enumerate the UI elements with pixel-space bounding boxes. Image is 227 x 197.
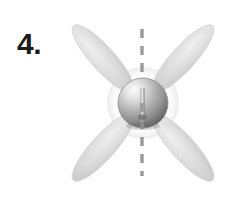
propeller-illustration <box>0 0 227 197</box>
hub-contact-shadow <box>126 122 160 130</box>
propeller-figure: 4. <box>0 0 227 197</box>
hub-shaft-collar <box>138 114 147 119</box>
